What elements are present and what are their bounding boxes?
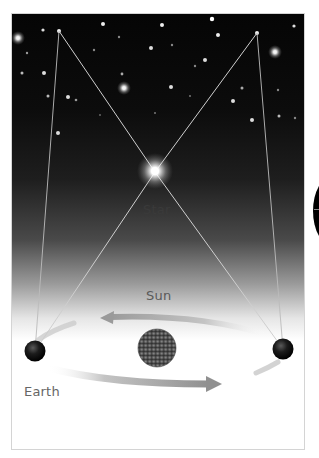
earth-label: Earth — [24, 384, 60, 399]
sight-line-right-earth — [257, 33, 283, 349]
orbit-arrow-top — [100, 311, 268, 335]
star-label: Star — [143, 202, 170, 217]
orbit-trail-right — [256, 362, 278, 373]
orbit-trail-left — [38, 323, 74, 340]
orbit-arrow-bottom — [48, 368, 222, 392]
earth-right — [273, 339, 294, 360]
background-stars — [11, 17, 296, 135]
earth-left — [25, 341, 46, 362]
sight-line-left-earth — [35, 31, 59, 351]
sight-lines — [35, 31, 283, 351]
sun-label: Sun — [146, 288, 171, 303]
edge-disc-line — [314, 209, 319, 210]
